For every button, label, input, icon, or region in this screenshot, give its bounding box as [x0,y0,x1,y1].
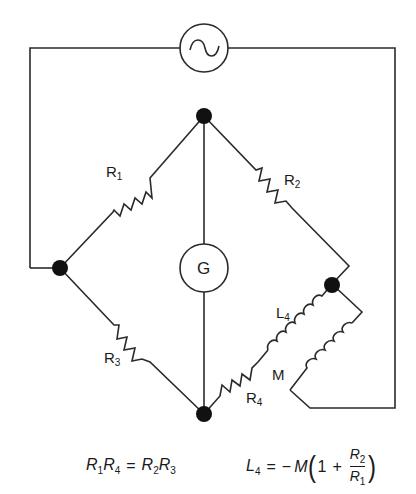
eq2-open-paren: ( [308,452,316,482]
label-m: M [272,367,285,382]
wire-top-left [30,48,180,268]
eq2-equals: = [266,458,275,476]
equation-balance-resistive: R1 R4 = R2 R3 [86,456,176,476]
label-l4: L4 [276,305,290,323]
label-r4-base: R [246,389,257,406]
label-r2-sub: 2 [295,179,301,190]
label-r1-base: R [106,163,117,180]
label-r2-base: R [284,171,295,188]
eq2-m: M [294,458,307,476]
label-r3-sub: 3 [115,357,121,368]
label-r3-base: R [104,349,115,366]
eq2-fraction: R2 R1 [350,446,366,487]
label-r3: R3 [104,350,120,368]
node-right [324,277,340,293]
resistor-r3-branch [60,268,204,414]
label-l4-sub: 4 [284,312,290,323]
eq1-equals: = [126,457,135,475]
label-r1-sub: 1 [117,171,123,182]
label-r1: R1 [106,164,122,182]
node-bottom [196,406,212,422]
label-r4: R4 [246,390,262,408]
mutual-inductance-m-branch [290,284,362,390]
eq2-plus: + [332,458,341,476]
equation-balance-inductive: L4 = − M ( 1 + R2 R1 ) [246,446,377,487]
node-left [52,260,68,276]
resistor-r4-inductor-l4-branch [204,284,332,414]
eq2-l4: L4 [246,457,260,477]
eq1-r3: R3 [159,456,176,476]
eq1-r1: R1 [86,456,103,476]
circuit-diagram [0,0,416,494]
eq1-r4: R4 [103,456,120,476]
eq2-close-paren: ) [368,452,376,482]
eq2-frac-num: R2 [350,446,366,465]
galvanometer-label: G [197,259,210,279]
label-r4-sub: 4 [257,397,263,408]
eq1-r2: R2 [142,456,159,476]
eq2-one: 1 [317,458,326,476]
eq2-minus: − [282,458,291,476]
label-m-base: M [272,366,285,383]
label-r2: R2 [284,172,300,190]
node-top [196,108,212,124]
resistor-r1-branch [60,116,204,268]
eq2-frac-bar [350,466,366,467]
ac-source-icon [180,24,228,72]
eq2-frac-den: R1 [350,468,366,487]
